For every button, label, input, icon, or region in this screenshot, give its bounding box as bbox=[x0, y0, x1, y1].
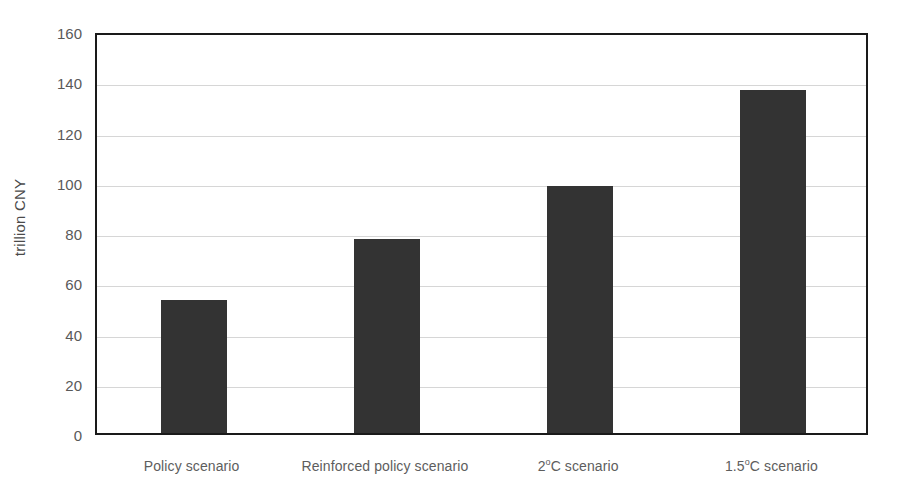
bar[interactable] bbox=[740, 90, 806, 433]
y-axis-tick-label: 40 bbox=[0, 326, 88, 343]
bar-slot bbox=[354, 35, 420, 433]
y-axis-tick-label: 120 bbox=[0, 125, 88, 142]
bar-slot bbox=[547, 35, 613, 433]
bar[interactable] bbox=[354, 239, 420, 433]
x-axis-tick-label: 1.5oC scenario bbox=[725, 458, 818, 474]
bar[interactable] bbox=[547, 186, 613, 433]
bar-chart-figure: trillion CNY 020406080100120140160 Polic… bbox=[0, 0, 901, 504]
bar-slot bbox=[161, 35, 227, 433]
y-axis-tick-label: 160 bbox=[0, 25, 88, 42]
x-axis-tick-label: Reinforced policy scenario bbox=[301, 458, 468, 474]
x-axis-tick-labels: Policy scenarioReinforced policy scenari… bbox=[95, 458, 868, 488]
bars-layer bbox=[97, 35, 866, 433]
y-axis-tick-label: 20 bbox=[0, 376, 88, 393]
y-axis-tick-label: 0 bbox=[0, 427, 88, 444]
y-axis-tick-label: 60 bbox=[0, 276, 88, 293]
bar[interactable] bbox=[161, 300, 227, 433]
y-axis-tick-label: 100 bbox=[0, 175, 88, 192]
bar-slot bbox=[740, 35, 806, 433]
y-axis-tick-label: 80 bbox=[0, 226, 88, 243]
x-axis-tick-label: Policy scenario bbox=[144, 458, 240, 474]
y-axis-tick-labels: 020406080100120140160 bbox=[0, 0, 88, 504]
plot-area bbox=[95, 33, 868, 435]
y-axis-tick-label: 140 bbox=[0, 75, 88, 92]
x-axis-tick-label: 2oC scenario bbox=[538, 458, 619, 474]
